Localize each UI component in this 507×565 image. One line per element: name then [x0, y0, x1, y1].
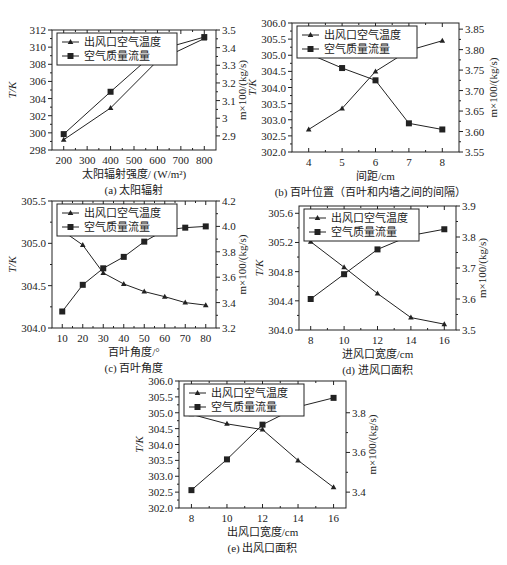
- y-left-tick-label: 303.5: [148, 454, 173, 466]
- data-point-temperature: [373, 68, 379, 73]
- data-point-temperature: [306, 126, 312, 131]
- y-right-tick-label: 3: [222, 112, 228, 124]
- x-tick-label: 30: [98, 332, 110, 344]
- y-left-tick-label: 304: [30, 93, 47, 105]
- y-left-tick-label: 305.2: [268, 236, 293, 248]
- y-left-tick-label: 304.5: [261, 65, 286, 77]
- y-right-tick-label: 3.6: [222, 271, 236, 283]
- y-left-tick-label: 300: [30, 127, 47, 139]
- y-right-tick-label: 3.60: [465, 126, 485, 138]
- data-point-mass-flow: [121, 254, 127, 260]
- x-tick-label: 20: [77, 332, 89, 344]
- legend-label: 出风口空气温度: [84, 206, 161, 219]
- panel-caption: (e) 出风口面积: [228, 541, 298, 555]
- y-left-tick-label: 310: [30, 41, 47, 53]
- data-point-temperature: [80, 242, 86, 247]
- data-point-mass-flow: [80, 282, 86, 288]
- x-tick-label: 8: [308, 334, 314, 346]
- series-line-mass-flow: [309, 54, 443, 130]
- y-right-axis-title: m×100/(kg/s): [236, 234, 249, 294]
- panel-c: 1020304050607080304.0304.5305.0305.53.23…: [6, 195, 249, 375]
- panel-d: 810121416304.0304.4304.8305.2305.63.53.6…: [253, 200, 489, 377]
- x-tick-label: 12: [257, 512, 268, 524]
- data-point-temperature: [331, 484, 337, 489]
- x-tick-label: 10: [221, 512, 233, 524]
- legend: 出风口空气温度空气质量流量: [57, 204, 177, 236]
- y-right-tick-label: 3.55: [465, 146, 485, 158]
- y-left-tick-label: 302.5: [261, 130, 286, 142]
- y-left-tick-label: 303.5: [261, 98, 286, 110]
- panel-caption: (a) 太阳辐射: [105, 183, 164, 197]
- x-tick-label: 80: [200, 332, 212, 344]
- y-right-tick-label: 3.85: [465, 23, 485, 35]
- y-left-tick-label: 305.0: [261, 49, 286, 61]
- x-tick-label: 6: [373, 156, 379, 168]
- legend-marker-square: [308, 46, 314, 52]
- y-left-tick-label: 302.0: [261, 146, 286, 158]
- y-right-tick-label: 4.0: [222, 220, 236, 232]
- y-left-tick-label: 304.0: [148, 439, 173, 451]
- y-left-tick-label: 306: [30, 75, 47, 87]
- y-left-tick-label: 302.5: [148, 486, 173, 498]
- y-right-tick-label: 3.1: [222, 95, 236, 107]
- x-tick-label: 14: [293, 512, 305, 524]
- y-left-axis-title: T/K: [6, 256, 18, 273]
- x-tick-label: 300: [79, 154, 96, 166]
- data-point-mass-flow: [439, 126, 445, 132]
- x-tick-label: 40: [118, 332, 130, 344]
- series-line-temperature: [311, 242, 445, 324]
- x-tick-label: 10: [339, 334, 351, 346]
- legend-label: 出风口空气温度: [84, 35, 161, 48]
- data-point-temperature: [440, 38, 446, 43]
- data-point-temperature: [375, 291, 381, 296]
- x-tick-label: 50: [139, 332, 151, 344]
- x-tick-label: 400: [102, 154, 119, 166]
- x-tick-label: 10: [57, 332, 69, 344]
- y-right-tick-label: 3.6: [462, 293, 476, 305]
- figure-canvas: 2003004005006007008002983003023043063083…: [0, 0, 507, 565]
- x-axis-title: 间距/cm: [356, 170, 395, 182]
- data-point-temperature: [408, 315, 414, 320]
- y-left-axis-title: T/K: [6, 81, 18, 98]
- panel-caption: (d) 进风口面积: [342, 364, 413, 377]
- panel-caption: (b) 百叶位置（百叶和内墙之间的间隔）: [275, 185, 467, 199]
- legend-label: 空气质量流量: [331, 225, 397, 238]
- y-left-tick-label: 303.0: [261, 114, 286, 126]
- y-left-tick-label: 304.0: [261, 82, 286, 94]
- data-point-mass-flow: [100, 265, 106, 271]
- y-right-tick-label: 3.2: [222, 77, 236, 89]
- data-point-mass-flow: [308, 296, 314, 302]
- legend-marker-square: [68, 224, 74, 230]
- data-point-mass-flow: [441, 226, 447, 232]
- y-right-tick-label: 3.8: [222, 246, 236, 258]
- y-right-tick-label: 3.2: [222, 322, 236, 334]
- x-axis-title: 进风口宽度/cm: [342, 347, 414, 360]
- x-tick-label: 500: [126, 154, 143, 166]
- y-left-tick-label: 305.0: [148, 407, 173, 419]
- x-tick-label: 7: [406, 156, 412, 168]
- y-right-tick-label: 3.4: [222, 42, 236, 54]
- y-left-tick-label: 305.0: [21, 237, 46, 249]
- y-right-tick-label: 3.5: [462, 324, 476, 336]
- data-point-mass-flow: [373, 77, 379, 83]
- legend-label: 空气质量流量: [84, 49, 150, 62]
- y-left-tick-label: 304.0: [268, 324, 293, 336]
- x-tick-label: 200: [55, 154, 72, 166]
- y-left-tick-label: 303.0: [148, 470, 173, 482]
- data-point-mass-flow: [203, 223, 209, 229]
- y-right-axis-title: m×100/(kg/s): [476, 238, 489, 298]
- y-right-tick-label: 4.2: [222, 195, 236, 207]
- y-right-tick-label: 3.75: [465, 64, 485, 76]
- data-point-mass-flow: [59, 308, 65, 314]
- x-tick-label: 16: [328, 512, 340, 524]
- y-left-tick-label: 298: [30, 144, 47, 156]
- y-right-tick-label: 3.3: [222, 59, 236, 71]
- legend: 出风口空气温度空气质量流量: [304, 209, 419, 241]
- legend-label: 空气质量流量: [211, 400, 277, 413]
- y-left-tick-label: 302.0: [148, 502, 173, 514]
- y-right-tick-label: 3.70: [465, 85, 485, 97]
- y-right-tick-label: 3.5: [222, 24, 236, 36]
- legend: 出风口空气温度空气质量流量: [297, 26, 417, 58]
- y-right-tick-label: 3.8: [462, 231, 476, 243]
- y-right-axis-title: m×100/(kg/s): [366, 414, 379, 474]
